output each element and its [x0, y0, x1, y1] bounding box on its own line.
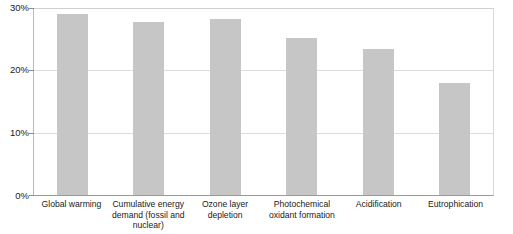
bar-slot [187, 8, 264, 195]
x-axis-labels: Global warming Cumulative energy demand … [33, 199, 494, 231]
bar-series [34, 8, 493, 195]
bar-global-warming [57, 14, 88, 195]
bar-slot [111, 8, 188, 195]
x-axis-label-acidification: Acidification [340, 199, 417, 231]
bar-slot [340, 8, 417, 195]
bar-photochemical-oxidant-formation [286, 38, 317, 195]
bar-chart: 30% 20% 10% 0% [0, 0, 513, 234]
bar-slot [264, 8, 341, 195]
x-axis-label-eutrophication: Eutrophication [417, 199, 494, 231]
bar-cumulative-energy-demand [133, 22, 164, 195]
plot-area [33, 8, 494, 196]
bar-acidification [363, 49, 394, 195]
x-axis-label-global-warming: Global warming [33, 199, 110, 231]
y-axis-tick-label-10: 10% [0, 128, 29, 138]
x-axis-label-ozone-layer-depletion: Ozone layer depletion [187, 199, 264, 231]
y-axis-tick-label-0: 0% [0, 191, 29, 201]
bar-eutrophication [439, 83, 470, 195]
y-axis-tickmark-0 [29, 195, 34, 196]
x-axis-label-photochemical-oxidant-formation: Photochemical oxidant formation [263, 199, 340, 231]
y-axis-tick-label-20: 20% [0, 65, 29, 75]
bar-slot [417, 8, 494, 195]
x-axis-label-cumulative-energy-demand: Cumulative energy demand (fossil and nuc… [110, 199, 187, 231]
y-axis-tick-label-30: 30% [0, 3, 29, 13]
bar-ozone-layer-depletion [210, 19, 241, 195]
bar-slot [34, 8, 111, 195]
